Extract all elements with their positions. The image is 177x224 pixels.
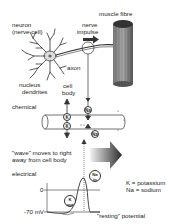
ion-k-upper: K	[63, 113, 71, 121]
direction-arrow-icon	[90, 141, 122, 169]
ion-na-in-sub: in	[90, 177, 100, 182]
label-muscle-fibre: muscle fibre	[99, 11, 132, 18]
label-resting: "resting" potential	[97, 213, 145, 220]
ion-na-lower: Na	[91, 130, 99, 138]
legend-sodium: Na = sodium	[126, 187, 161, 194]
ion-na-in: Na in	[89, 170, 101, 182]
muscle-fibre-illustration	[113, 20, 133, 87]
ion-k-out-sub: out	[65, 202, 75, 207]
sodium-arrows	[86, 116, 91, 128]
label-chemical: chemical	[12, 104, 36, 111]
down-arrow-icon	[86, 98, 91, 102]
up-arrow-icon	[82, 139, 87, 144]
ion-k-out: K out	[64, 195, 76, 207]
ion-na-upper: Na	[84, 106, 92, 114]
label-axon: axon	[67, 65, 80, 72]
label-dendrites: dendrites	[22, 89, 47, 96]
label-nerve-cell: (nerve cell)	[12, 29, 43, 36]
label-minus70: -70 mV	[24, 209, 44, 216]
label-nerve-impulse-2: impulse	[77, 29, 98, 36]
label-zero: 0	[40, 187, 43, 194]
axon-cylinder	[42, 115, 125, 129]
neuron-illustration	[22, 29, 124, 80]
label-electrical: electrical	[12, 171, 36, 178]
label-wave-2: away from cell body	[12, 157, 67, 164]
label-cell-body-2: body	[62, 90, 75, 97]
ion-k-lower: K	[63, 122, 71, 130]
